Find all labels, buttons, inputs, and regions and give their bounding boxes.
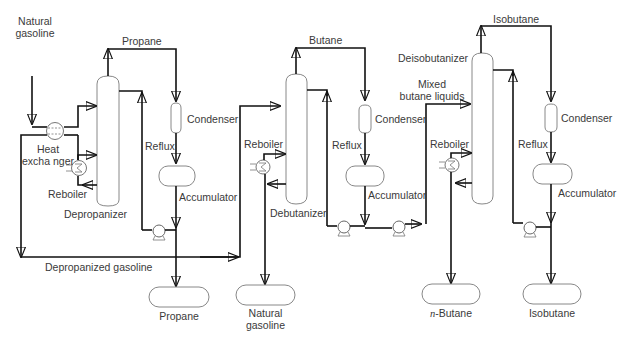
label-propane-overhead: Propane (122, 35, 162, 47)
condenser-2 (359, 105, 371, 133)
n-butane-tank (422, 284, 480, 304)
reboiler-2-icon (256, 160, 270, 174)
debutanizer-column (286, 74, 307, 204)
label-natural-gasoline-feed: Natural gasoline (10, 15, 60, 39)
label-natural-gasoline-product: Natural gasoline (236, 307, 295, 331)
label-n-butane-product: n-Butane (422, 307, 480, 320)
condenser-3 (545, 104, 557, 132)
label-mixed-butane-liquids: Mixed butane liquids (398, 78, 466, 102)
label-isobutane-overhead: Isobutane (493, 13, 539, 25)
label-deisobutanizer: Deisobutanizer (398, 52, 468, 64)
label-line: Natural (10, 15, 60, 27)
label-line: gasoline (236, 319, 295, 331)
isobutane-tank (523, 284, 581, 304)
reboiler-3-icon (445, 158, 459, 172)
pump-4-icon (524, 222, 536, 234)
propane-tank (149, 287, 209, 307)
label-line: Heat (20, 143, 76, 155)
label-condenser-1: Condenser (187, 113, 238, 125)
label-reboiler-2: Reboiler (244, 138, 283, 150)
label-line: butane liquids (398, 90, 466, 102)
label-reflux-2: Reflux (332, 139, 362, 151)
label-line: Mixed (398, 78, 466, 90)
label-accumulator-1: Accumulator (179, 191, 237, 203)
pump-2-icon (338, 221, 350, 233)
label-debutanizer: Debutanizer (270, 207, 327, 219)
label-depropanizer: Depropanizer (64, 208, 127, 220)
label-propane-product: Propane (149, 310, 209, 322)
accumulator-1 (159, 166, 195, 186)
flow-lines (0, 0, 630, 340)
label-accumulator-2: Accumulator (368, 189, 426, 201)
depropanizer-column (97, 76, 119, 206)
pump-3-icon (393, 221, 405, 233)
label-line: gasoline (10, 27, 60, 39)
label-reboiler-3: Reboiler (430, 138, 469, 150)
label-line: Natural (236, 307, 295, 319)
label-butane-overhead: Butane (309, 34, 342, 46)
condenser-1 (171, 103, 181, 133)
deisobutanizer-column (472, 53, 493, 204)
process-flow-diagram: Natural gasoline Propane Heat excha nger… (0, 0, 630, 340)
label-accumulator-3: Accumulator (558, 187, 616, 199)
label-isobutane-product: Isobutane (523, 307, 581, 319)
label-heat-exchanger: Heat excha nger (20, 143, 76, 167)
accumulator-3 (533, 164, 572, 184)
label-condenser-2: Condenser (375, 113, 426, 125)
label-butane-suffix: -Butane (435, 307, 472, 319)
label-reflux-1: Reflux (145, 140, 175, 152)
heat-exchanger-icon (47, 123, 64, 140)
label-depropanized-gasoline: Depropanized gasoline (45, 261, 152, 273)
natural-gasoline-tank (236, 285, 295, 305)
accumulator-2 (346, 166, 384, 186)
pump-1-icon (153, 225, 165, 237)
label-condenser-3: Condenser (561, 112, 612, 124)
label-line: excha nger (20, 155, 76, 167)
label-reboiler-1: Reboiler (48, 188, 87, 200)
label-reflux-3: Reflux (518, 138, 548, 150)
